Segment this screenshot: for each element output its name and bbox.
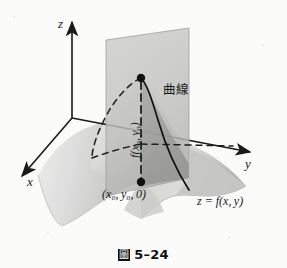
surface-diagram: z x y 曲線 f(x₀, y₀) (x₀, y₀, 0) z = f(x, … (0, 0, 287, 268)
curve-label: 曲線 (163, 82, 189, 97)
figure-caption: 圖 5–24 (0, 247, 287, 262)
scan-speckle (262, 44, 264, 46)
surface-equation-label: z = f(x, y) (196, 194, 243, 208)
z-axis-label: z (57, 16, 63, 31)
x-axis-label: x (26, 174, 33, 189)
base-point-dot (137, 178, 145, 186)
scan-speckle (13, 16, 15, 18)
scan-speckle (228, 236, 230, 238)
peak-point-dot (137, 74, 145, 82)
base-point-label: (x₀, y₀, 0) (102, 187, 146, 201)
caption-figure-number: 5–24 (134, 247, 168, 262)
figure-container: z x y 曲線 f(x₀, y₀) (x₀, y₀, 0) z = f(x, … (0, 0, 287, 268)
caption-figure-glyph: 圖 (118, 249, 130, 261)
y-axis-label: y (243, 156, 251, 171)
height-label: f(x₀, y₀) (128, 122, 142, 158)
scan-speckle (47, 232, 49, 234)
cutting-plane (106, 28, 189, 196)
